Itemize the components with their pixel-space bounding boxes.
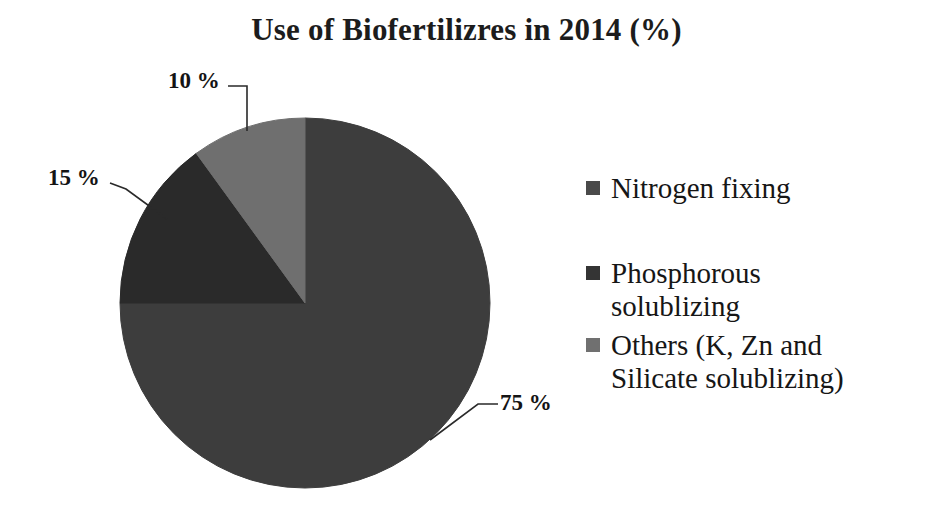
- legend-label-nitrogen-fixing: Nitrogen fixing: [611, 172, 791, 204]
- legend-label-phosphorous-line2: solublizing: [611, 290, 740, 322]
- data-label-others-10-percent: 10 %: [168, 68, 220, 94]
- data-label-nitrogen-75-percent: 75 %: [500, 390, 552, 416]
- data-label-phosphorous-15-percent: 15 %: [48, 165, 100, 191]
- callout-leader-line-10: [228, 86, 247, 131]
- pie-chart-figure: Use of Biofertilizres in 2014 (%) 10 % 1…: [0, 0, 933, 522]
- legend-swatch-icon-others: [586, 338, 600, 352]
- legend-label-others-line2: Silicate solublizing): [611, 362, 844, 394]
- legend-label-others-line1: Others (K, Zn and: [611, 329, 822, 361]
- legend-swatch-icon-phosphorous-solublizing: [586, 266, 600, 280]
- legend-item-others[interactable]: Others (K, Zn and Silicate solublizing): [586, 329, 926, 395]
- legend-swatch-icon-nitrogen-fixing: [586, 181, 600, 195]
- legend: Nitrogen fixing Phosphorous solublizing …: [586, 172, 926, 395]
- legend-label-phosphorous-line1: Phosphorous: [611, 257, 761, 289]
- legend-item-phosphorous-solublizing[interactable]: Phosphorous solublizing: [586, 257, 926, 323]
- legend-item-nitrogen-fixing[interactable]: Nitrogen fixing: [586, 172, 926, 205]
